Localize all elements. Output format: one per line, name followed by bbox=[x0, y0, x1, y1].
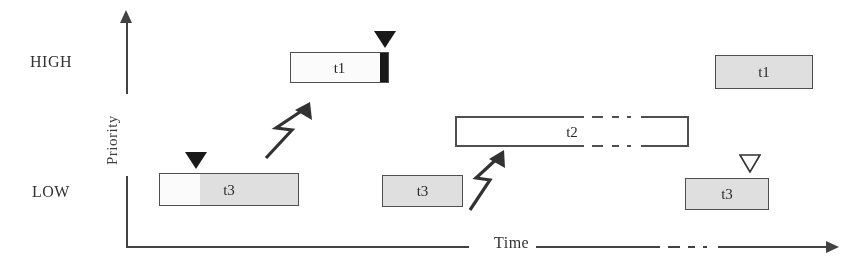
x-axis-label: Time bbox=[494, 234, 529, 252]
task-bar-t3-second: t3 bbox=[382, 175, 463, 207]
marker-t3-completion-hollow-triangle-icon bbox=[739, 154, 761, 173]
x-axis-line-segment-2 bbox=[536, 246, 660, 248]
x-axis-break-dash-2 bbox=[688, 246, 695, 248]
task-bar-t2-bottom-edge-right bbox=[641, 145, 689, 147]
task-bar-t2-top-break-dot-3 bbox=[627, 116, 631, 118]
task-bar-t2-label: t2 bbox=[455, 123, 689, 140]
x-axis-break-dash-1 bbox=[668, 246, 680, 248]
task-bar-t2-top-edge-left bbox=[455, 116, 584, 118]
y-axis-tick-high: HIGH bbox=[30, 53, 72, 71]
task-bar-t1-second-label: t1 bbox=[716, 64, 812, 81]
task-bar-t2-top-break-dash-1 bbox=[592, 116, 603, 118]
task-bar-t3-third-label: t3 bbox=[686, 186, 768, 203]
x-axis-break-dot-3 bbox=[703, 246, 707, 248]
y-axis-line-lower bbox=[126, 176, 128, 248]
task-bar-t2-bottom-break-dot-3 bbox=[627, 145, 631, 147]
task-bar-t2-bottom-edge-left bbox=[455, 145, 584, 147]
x-axis-arrowhead-icon bbox=[826, 241, 839, 253]
preemption-lightning-arrow-2-icon bbox=[466, 148, 510, 214]
task-bar-t1-first: t1 bbox=[290, 52, 389, 83]
y-axis-line-upper bbox=[126, 22, 128, 94]
task-bar-t3-second-label: t3 bbox=[383, 183, 462, 200]
marker-t3-release-filled-triangle-icon bbox=[185, 152, 207, 169]
preemption-lightning-arrow-1-icon bbox=[262, 100, 318, 162]
task-bar-t2-bottom-break-dash-1 bbox=[592, 145, 603, 147]
task-bar-t3-third: t3 bbox=[685, 178, 769, 210]
x-axis-line-segment-3 bbox=[718, 246, 830, 248]
task-bar-t2-top-edge-right bbox=[641, 116, 689, 118]
task-bar-t2-bottom-break-dash-2 bbox=[612, 145, 619, 147]
task-bar-t2: t2 bbox=[455, 116, 689, 147]
y-axis-label: Priority bbox=[104, 115, 121, 165]
task-bar-t1-second: t1 bbox=[715, 55, 813, 89]
task-bar-t3-first: t3 bbox=[159, 173, 299, 206]
x-axis-line-segment-1 bbox=[126, 246, 469, 248]
y-axis-tick-low: LOW bbox=[32, 183, 70, 201]
timing-diagram-figure: Priority HIGH LOW Time t1 t1 t2 t3 bbox=[0, 0, 853, 280]
task-bar-t1-first-label: t1 bbox=[291, 59, 388, 76]
task-bar-t2-top-break-dash-2 bbox=[612, 116, 619, 118]
task-bar-t3-first-label: t3 bbox=[160, 181, 298, 198]
marker-t1-release-filled-triangle-icon bbox=[374, 31, 396, 48]
